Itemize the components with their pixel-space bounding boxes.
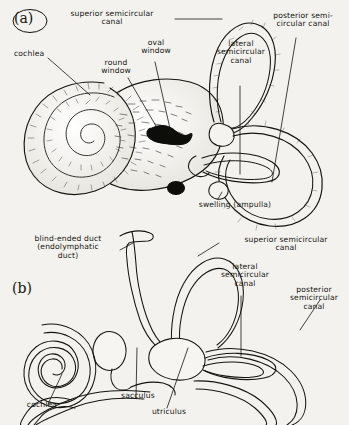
label-swelling-ampulla-a: swelling (ampulla) — [172, 201, 298, 209]
label-round-window-a: round window — [92, 59, 140, 76]
label-cochlea-b: cochlea — [14, 401, 70, 409]
label-posterior-semicircular-canal-b: posterior semicircular canal — [282, 286, 346, 311]
swelling-ampulla-shape — [209, 182, 228, 200]
label-superior-semicircular-canal-b: superior semicircular canal — [226, 236, 346, 253]
round-window-mark — [168, 182, 185, 195]
label-lateral-semicircular-canal-b: lateral semicircular canal — [212, 263, 278, 288]
label-lateral-semicircular-canal-a: lateral semicircular canal — [206, 40, 276, 65]
label-superior-semicircular-canal-a: superior semicircular canal — [50, 10, 174, 27]
label-posterior-semicircular-canal-a: posterior semi- circular canal — [258, 12, 348, 29]
b-posterior-canal-lower-inner — [196, 389, 267, 425]
endolymphatic-duct-left — [120, 231, 156, 346]
panel-b-leader-lines — [48, 243, 320, 408]
label-oval-window-a: oval window — [132, 39, 180, 56]
endolymphatic-duct-right — [132, 232, 165, 347]
label-utriculus-b: utriculus — [140, 408, 198, 416]
superior-canal-ampulla — [209, 123, 234, 146]
label-blind-ended-duct-b: blind-ended duct (endolymphatic duct) — [16, 235, 120, 260]
b-posterior-canal-inner — [208, 357, 297, 425]
label-sacculus-b: sacculus — [110, 392, 166, 400]
figure-linework — [0, 0, 349, 425]
panel-a-mark-circle — [10, 8, 50, 34]
utriculus-shape — [149, 338, 205, 380]
sacculus-neck — [111, 369, 131, 390]
b-posterior-canal-outer — [206, 348, 306, 425]
panel-b-mark: (b) — [12, 280, 32, 296]
sacculus-shape — [93, 332, 126, 371]
inner-ear-figure: (a) superior semicircular canal posterio… — [0, 0, 349, 425]
leader-b-superior-canal — [198, 243, 219, 256]
b-lateral-canal-inner — [203, 362, 264, 378]
label-cochlea-a: cochlea — [14, 50, 74, 58]
